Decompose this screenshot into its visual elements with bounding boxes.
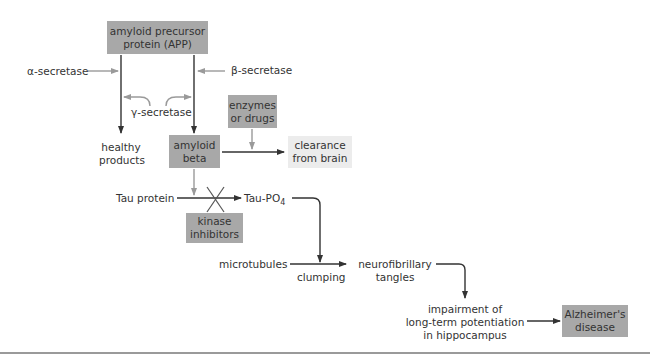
node-tau-protein: Tau protein <box>116 192 174 205</box>
node-alzheimers-line1: Alzheimer's <box>564 308 625 321</box>
label-alpha-secretase: α-secretase <box>27 65 88 78</box>
node-tangles-line2: tangles <box>357 271 433 284</box>
label-gamma-secretase: γ-secretase <box>131 106 192 119</box>
node-app-line2: protein (APP) <box>123 38 192 51</box>
node-enzymes-line1: enzymes <box>229 99 276 112</box>
node-microtubules: microtubules <box>219 258 287 271</box>
arrow-gamma-left <box>124 97 150 106</box>
node-enzymes-line2: or drugs <box>231 112 275 125</box>
node-clearance-from-brain: clearance from brain <box>288 136 352 168</box>
diagram-connectors <box>0 0 650 355</box>
node-enzymes-or-drugs: enzymes or drugs <box>228 95 277 128</box>
node-kinase-line1: kinase <box>197 215 231 228</box>
label-clumping: clumping <box>297 271 345 284</box>
node-app-line1: amyloid precursor <box>110 25 205 38</box>
node-healthy-products: healthy products <box>99 141 143 167</box>
node-impairment-line3: in hippocampus <box>405 329 525 342</box>
node-amyloid-beta-line1: amyloid <box>174 139 216 152</box>
node-impairment-line2: long-term potentiation <box>405 316 525 329</box>
node-tau-po4-label: Tau-PO <box>244 192 280 204</box>
node-clearance-line1: clearance <box>294 139 345 152</box>
arrow-tangles-to-impairment <box>436 264 465 298</box>
node-healthy-line1: healthy <box>99 141 143 154</box>
node-tau-po4: Tau-PO4 <box>244 192 285 209</box>
node-kinase-inhibitors: kinase inhibitors <box>186 213 243 243</box>
node-neurofibrillary-tangles: neurofibrillary tangles <box>357 258 433 284</box>
arrow-gamma-right <box>166 97 191 106</box>
node-clearance-line2: from brain <box>293 152 348 165</box>
arrow-tau-po4-to-clumping <box>292 198 320 262</box>
footer-divider <box>0 352 650 354</box>
node-impairment-ltp: impairment of long-term potentiation in … <box>405 303 525 342</box>
node-impairment-line1: impairment of <box>405 303 525 316</box>
label-beta-secretase: β-secretase <box>231 64 292 77</box>
node-amyloid-beta-line2: beta <box>183 152 207 165</box>
node-alzheimers-disease: Alzheimer's disease <box>562 305 628 337</box>
node-healthy-line2: products <box>99 154 143 167</box>
node-amyloid-beta: amyloid beta <box>169 135 220 168</box>
node-tangles-line1: neurofibrillary <box>357 258 433 271</box>
node-kinase-line2: inhibitors <box>190 228 239 241</box>
node-tau-po4-subscript: 4 <box>280 198 285 207</box>
node-alzheimers-line2: disease <box>575 321 615 334</box>
node-app: amyloid precursor protein (APP) <box>107 21 208 54</box>
